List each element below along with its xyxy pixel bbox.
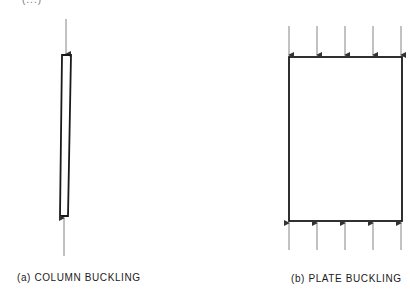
caption-plate-buckling: (b) PLATE BUCKLING [291, 273, 402, 284]
plate-member [289, 57, 402, 221]
plate-panel [289, 26, 402, 250]
column-member [60, 55, 71, 216]
top-load-arrows [289, 26, 401, 55]
buckling-diagram [0, 0, 410, 298]
column-panel [60, 19, 71, 256]
caption-column-buckling: (a) COLUMN BUCKLING [17, 272, 141, 283]
bottom-load-arrows [289, 223, 401, 250]
